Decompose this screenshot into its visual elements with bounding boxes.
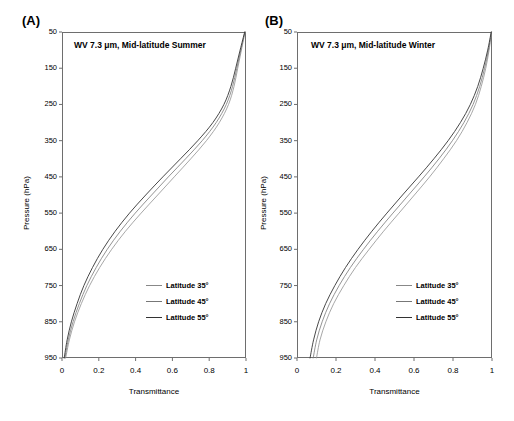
legend-label: Latitude 35° bbox=[166, 281, 209, 290]
legend-line-icon bbox=[146, 317, 162, 318]
y-tick-label: 450 bbox=[266, 172, 292, 181]
legend-line-icon bbox=[146, 301, 162, 302]
y-tick-label: 50 bbox=[266, 27, 292, 36]
x-tick-label: 0.4 bbox=[124, 366, 148, 375]
legend-item: Latitude 55° bbox=[396, 309, 459, 325]
x-tick-label: 0 bbox=[285, 366, 309, 375]
y-tick-label: 550 bbox=[266, 208, 292, 217]
panel-a-legend: Latitude 35° Latitude 45° Latitude 55° bbox=[146, 277, 209, 325]
y-tick-label: 850 bbox=[266, 317, 292, 326]
legend-line-icon bbox=[396, 301, 412, 302]
legend-item: Latitude 55° bbox=[146, 309, 209, 325]
y-tick-label: 50 bbox=[31, 27, 57, 36]
legend-item: Latitude 35° bbox=[146, 277, 209, 293]
legend-line-icon bbox=[146, 285, 162, 286]
x-tick-label: 0.6 bbox=[402, 366, 426, 375]
legend-label: Latitude 45° bbox=[416, 297, 459, 306]
y-tick-label: 650 bbox=[266, 244, 292, 253]
y-tick-label: 450 bbox=[31, 172, 57, 181]
y-tick-label: 750 bbox=[31, 281, 57, 290]
figure: (A) WV 7.3 μm, Mid-latitude Summer Press… bbox=[0, 0, 514, 421]
x-tick-label: 0.2 bbox=[87, 366, 111, 375]
legend-item: Latitude 45° bbox=[146, 293, 209, 309]
legend-label: Latitude 45° bbox=[166, 297, 209, 306]
panel-b-curves bbox=[257, 0, 514, 421]
legend-label: Latitude 55° bbox=[166, 313, 209, 322]
legend-line-icon bbox=[396, 285, 412, 286]
x-tick-label: 0.8 bbox=[441, 366, 465, 375]
y-tick-label: 950 bbox=[31, 353, 57, 362]
y-tick-label: 150 bbox=[31, 63, 57, 72]
x-tick-label: 1 bbox=[234, 366, 258, 375]
y-tick-label: 850 bbox=[31, 317, 57, 326]
x-tick-label: 0.2 bbox=[324, 366, 348, 375]
y-tick-label: 950 bbox=[266, 353, 292, 362]
y-tick-label: 150 bbox=[266, 63, 292, 72]
y-tick-label: 550 bbox=[31, 208, 57, 217]
legend-line-icon bbox=[396, 317, 412, 318]
y-tick-label: 250 bbox=[266, 99, 292, 108]
y-tick-label: 350 bbox=[266, 136, 292, 145]
panel-b-legend: Latitude 35° Latitude 45° Latitude 55° bbox=[396, 277, 459, 325]
y-tick-label: 750 bbox=[266, 281, 292, 290]
y-tick-label: 350 bbox=[31, 136, 57, 145]
legend-item: Latitude 35° bbox=[396, 277, 459, 293]
x-tick-label: 0.4 bbox=[363, 366, 387, 375]
legend-label: Latitude 55° bbox=[416, 313, 459, 322]
y-tick-label: 650 bbox=[31, 244, 57, 253]
x-tick-label: 0.8 bbox=[197, 366, 221, 375]
x-tick-label: 0.6 bbox=[160, 366, 184, 375]
x-tick-label: 0 bbox=[50, 366, 74, 375]
panel-a: (A) WV 7.3 μm, Mid-latitude Summer Press… bbox=[0, 0, 257, 421]
y-tick-label: 250 bbox=[31, 99, 57, 108]
legend-label: Latitude 35° bbox=[416, 281, 459, 290]
x-tick-label: 1 bbox=[480, 366, 504, 375]
panel-b: (B) WV 7.3 μm, Mid-latitude Winter Press… bbox=[257, 0, 514, 421]
legend-item: Latitude 45° bbox=[396, 293, 459, 309]
